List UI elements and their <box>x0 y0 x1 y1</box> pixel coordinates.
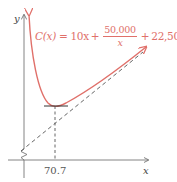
minimum-x-value-label: 70.7 <box>44 166 66 176</box>
cost-function-formula: C(x) = 10x + 50,000 x + 22,500 <box>35 25 177 47</box>
formula-fraction: 50,000 x <box>103 25 136 47</box>
formula-lhs: C(x) <box>35 30 56 42</box>
cost-function-graph: y x 70.7 C(x) = 10x + 50,000 x + 22,500 <box>0 0 177 182</box>
oblique-asymptote <box>21 52 143 151</box>
x-axis-label: x <box>143 166 149 176</box>
formula-plus1: + <box>91 30 100 42</box>
formula-equals: = <box>59 30 68 42</box>
formula-term1: 10x <box>70 30 88 42</box>
formula-constant: 22,500 <box>151 30 177 42</box>
fraction-denominator: x <box>118 37 123 48</box>
formula-plus2: + <box>141 30 150 42</box>
y-axis-label: y <box>14 14 20 24</box>
fraction-numerator: 50,000 <box>103 25 136 37</box>
y-axis <box>21 15 27 178</box>
